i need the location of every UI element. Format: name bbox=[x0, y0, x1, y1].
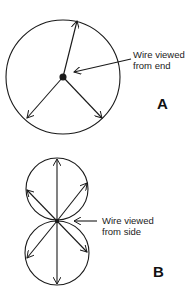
figure-a-radiation-pattern bbox=[6, 20, 131, 134]
field-arrow bbox=[27, 77, 63, 118]
diagram-canvas bbox=[0, 0, 193, 298]
pointer-arrow bbox=[74, 59, 131, 72]
wire-point bbox=[55, 219, 58, 222]
figure-b-label: B bbox=[153, 263, 164, 280]
field-arrow bbox=[57, 221, 87, 252]
annotation-line: from side bbox=[102, 226, 154, 237]
figure-a-label: A bbox=[157, 95, 168, 112]
annotation-line: Wire viewed bbox=[102, 215, 154, 226]
figure-a-annotation: Wire viewed from end bbox=[133, 49, 185, 71]
figure-b-annotation: Wire viewed from side bbox=[102, 215, 154, 237]
wire-end-dot bbox=[60, 74, 66, 80]
annotation-line: Wire viewed bbox=[133, 49, 185, 60]
field-arrow bbox=[63, 21, 77, 77]
field-arrow bbox=[27, 221, 57, 258]
annotation-line: from end bbox=[133, 60, 185, 71]
field-arrow bbox=[57, 183, 87, 221]
field-arrow bbox=[63, 77, 102, 118]
figure-b-radiation-pattern bbox=[25, 158, 97, 285]
